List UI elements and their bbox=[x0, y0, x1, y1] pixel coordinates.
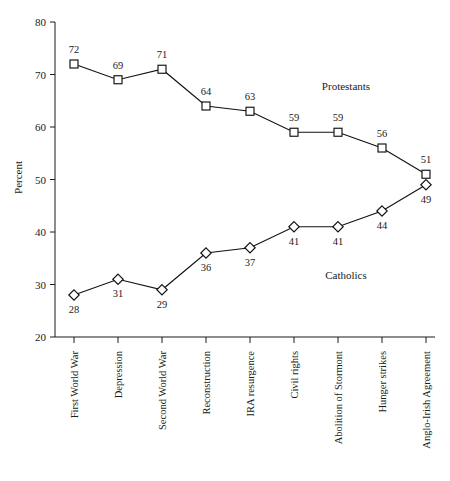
chart-container: 20304050607080 7269716463595956512831293… bbox=[0, 0, 450, 481]
y-tick-label: 70 bbox=[35, 69, 47, 81]
point-value-label: 63 bbox=[245, 91, 256, 102]
point-value-label: 56 bbox=[377, 128, 388, 139]
series-annotation-catholics: Catholics bbox=[325, 269, 367, 281]
point-value-label: 37 bbox=[245, 257, 256, 268]
marker-square bbox=[246, 107, 254, 115]
y-tick-label: 30 bbox=[35, 279, 47, 291]
point-value-label: 49 bbox=[421, 194, 432, 205]
marker-square bbox=[378, 144, 386, 152]
point-value-label: 71 bbox=[157, 49, 168, 60]
point-value-label: 59 bbox=[333, 112, 344, 123]
point-value-label: 51 bbox=[421, 154, 432, 165]
point-value-label: 41 bbox=[289, 236, 300, 247]
point-value-label: 72 bbox=[69, 44, 80, 55]
point-value-label: 36 bbox=[201, 262, 212, 273]
y-tick-label: 20 bbox=[35, 331, 47, 343]
marker-square bbox=[290, 128, 298, 136]
point-value-label: 41 bbox=[333, 236, 344, 247]
point-value-label: 31 bbox=[113, 288, 124, 299]
marker-square bbox=[70, 60, 78, 68]
point-value-label: 64 bbox=[201, 86, 212, 97]
point-value-label: 44 bbox=[377, 220, 388, 231]
marker-square bbox=[334, 128, 342, 136]
marker-square bbox=[158, 65, 166, 73]
y-tick-label: 80 bbox=[35, 16, 47, 28]
marker-square bbox=[114, 76, 122, 84]
x-tick-label: Depression bbox=[113, 350, 124, 398]
x-tick-label: Anglo-Irish Agreement bbox=[421, 351, 432, 449]
marker-square bbox=[422, 170, 430, 178]
y-tick-label: 40 bbox=[35, 226, 47, 238]
point-value-label: 59 bbox=[289, 112, 300, 123]
series-annotation-protestants: Protestants bbox=[322, 80, 370, 92]
x-tick-label: First World War bbox=[69, 351, 80, 419]
point-value-label: 29 bbox=[157, 299, 168, 310]
x-tick-label: Second World War bbox=[157, 351, 168, 430]
marker-square bbox=[202, 102, 210, 110]
x-tick-label: Civil rights bbox=[289, 351, 300, 399]
point-value-label: 69 bbox=[113, 60, 124, 71]
y-tick-label: 60 bbox=[35, 121, 47, 133]
x-tick-label: Reconstruction bbox=[201, 350, 212, 414]
x-tick-label: Hunger strikes bbox=[377, 351, 388, 413]
y-tick-label: 50 bbox=[35, 174, 47, 186]
point-value-label: 28 bbox=[69, 304, 80, 315]
y-axis-title: Percent bbox=[12, 161, 24, 194]
x-tick-label: Abolition of Stormont bbox=[333, 351, 344, 444]
x-tick-label: IRA resurgence bbox=[245, 351, 256, 417]
line-chart: 20304050607080 7269716463595956512831293… bbox=[0, 0, 450, 481]
y-axis-title-label: Percent bbox=[12, 161, 24, 194]
